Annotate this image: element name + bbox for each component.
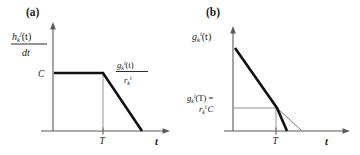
panel-b-y-axis-label: gki(t) [192,30,211,43]
panel-a-label: (a) [26,6,40,19]
annotation-denominator-subscript: k [127,80,130,86]
tick-line1-equals: = [208,93,213,103]
annotation-denominator-superscript: i [130,75,132,81]
figure-container: (a) C T t hkj(t) [0,0,360,155]
panel-a-x-axis-name: t [155,136,159,147]
numerator-subscript: k [17,36,21,43]
panel-b-y-tick-label: gki(T)= rkiC [187,93,214,115]
panel-b-y-axis-arrowhead [230,26,236,34]
panel-a-curve-annotation: gki(t) rki [116,60,148,86]
annotation-denominator: rki [124,75,132,86]
panel-b: (b) T t gki(t) [187,6,350,147]
panel-a-y-tick-label: C [38,69,45,79]
annotation-numerator-argument: (t) [126,60,134,70]
tick-line1-subscript: k [191,98,194,104]
panel-b-y-label-subscript: k [197,36,201,43]
panel-b-curve [235,48,287,131]
panel-a: (a) C T t hkj(t) [11,6,170,147]
panel-b-x-axis-name: t [325,136,329,147]
panel-a-x-axis-arrowhead [163,128,171,134]
panel-b-x-axis-arrowhead [343,128,351,134]
numerator-argument: (t) [22,31,31,43]
panel-b-y-tick-line2: rkiC [199,104,214,115]
panel-b-y-tick-line1: gki(T)= [187,93,213,104]
panel-b-x-tick-label: T [273,136,279,146]
panel-a-x-tick-label: T [100,136,106,146]
panel-a-y-axis-label-numerator: hkj(t) [12,30,31,43]
panel-b-label: (b) [206,6,220,19]
panel-a-y-axis-arrowhead [50,22,56,30]
panel-b-y-label-argument: (t) [202,31,211,43]
panel-a-y-axis-label-denominator: dt [22,47,30,58]
tick-line1-argument: (T) [196,93,207,103]
figure-svg: (a) C T t hkj(t) [0,0,360,155]
tick-line2-tail: C [208,104,214,114]
tick-line2-subscript: k [202,109,205,115]
annotation-numerator-subscript: k [121,65,124,71]
annotation-numerator: gki(t) [117,60,134,71]
panel-a-y-axis-label: hkj(t) dt [11,30,47,58]
